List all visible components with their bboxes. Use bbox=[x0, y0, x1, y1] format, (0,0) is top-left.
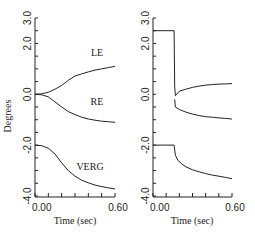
series-line-verg bbox=[153, 145, 232, 179]
series-label-le: LE bbox=[91, 47, 103, 58]
series-line-upper bbox=[153, 31, 232, 96]
x-axis-title-left: Time (sec) bbox=[54, 215, 97, 227]
y-tick-label: -2.0 bbox=[140, 136, 151, 154]
y-axis-title: Degrees bbox=[2, 100, 13, 133]
x-tick-label: 0.60 bbox=[108, 202, 128, 213]
chart-figure: 3.02.00.0-2.0-4.00.000.60LEREVERG 3.02.0… bbox=[0, 0, 255, 237]
y-tick-label: 2.0 bbox=[22, 36, 33, 50]
y-tick-label: -2.0 bbox=[22, 136, 33, 154]
y-tick-label: 0.0 bbox=[140, 87, 151, 101]
x-tick-label: 0.00 bbox=[150, 202, 170, 213]
x-axis-title-right: Time (sec) bbox=[171, 215, 214, 227]
left-panel: 3.02.00.0-2.0-4.00.000.60LEREVERG bbox=[22, 11, 128, 213]
y-tick-label: 3.0 bbox=[22, 11, 33, 25]
series-label-verg: VERG bbox=[76, 161, 103, 172]
y-tick-label: 0.0 bbox=[22, 87, 33, 101]
x-tick-label: 0.60 bbox=[225, 202, 245, 213]
y-tick-label: 2.0 bbox=[140, 36, 151, 50]
y-tick-label: 3.0 bbox=[140, 11, 151, 25]
x-tick-label: 0.00 bbox=[32, 202, 52, 213]
right-panel: 3.02.00.0-2.0-4.00.000.60 bbox=[140, 11, 245, 213]
series-line-lower bbox=[175, 99, 232, 119]
series-line-le bbox=[35, 66, 115, 94]
series-label-re: RE bbox=[91, 96, 104, 107]
